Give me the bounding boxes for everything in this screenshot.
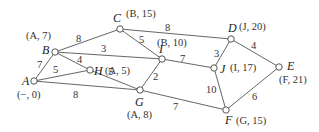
edge-weight-label: 8: [165, 22, 170, 33]
node-d-label: D: [227, 21, 237, 35]
edge-weight-label: 5: [139, 34, 144, 45]
node-h-circle: [87, 67, 93, 73]
node-b-circle: [52, 49, 58, 55]
node-b-label: B: [42, 43, 50, 57]
edge-a-g: [34, 81, 140, 90]
edge-a-h: [34, 70, 90, 81]
node-e-tag: (F, 21): [279, 74, 307, 86]
edge-i-j: [162, 59, 214, 68]
edge-f-e: [226, 67, 279, 110]
node-h-tag: (A, 5): [105, 65, 131, 77]
node-g-tag: (A, 8): [127, 109, 153, 121]
edge-weight-label: 10: [206, 84, 217, 95]
edge-weight-label: 2: [153, 71, 158, 82]
node-c-tag: (B, 15): [126, 8, 156, 20]
node-d-tag: (J, 20): [239, 21, 266, 33]
node-f-tag: (G, 15): [236, 115, 267, 127]
node-f-label: F: [224, 113, 233, 127]
node-a-label: A: [21, 74, 30, 88]
edge-weight-label: 8: [73, 89, 78, 100]
weighted-graph-diagram: 75883455827731046 A(−, 0)B(A, 7)C(B, 15)…: [0, 0, 319, 132]
edge-b-i: [55, 52, 162, 59]
node-e-label: E: [286, 59, 295, 73]
edge-weight-label: 8: [76, 33, 81, 44]
edge-weight-label: 4: [77, 54, 83, 65]
node-c-label: C: [113, 11, 122, 25]
edge-weight-label: 3: [101, 43, 106, 54]
node-j-tag: (I, 17): [230, 62, 257, 74]
node-h-label: H: [93, 64, 104, 78]
edge-i-g: [140, 59, 162, 90]
node-a-circle: [31, 78, 37, 84]
node-d-circle: [228, 36, 234, 42]
edge-weight-label: 6: [252, 91, 257, 102]
node-e-circle: [276, 64, 282, 70]
node-c-circle: [117, 26, 123, 32]
edge-weight-label: 7: [173, 101, 178, 112]
node-j-label: J: [220, 62, 226, 76]
edge-weight-label: 7: [180, 53, 185, 64]
edge-b-c: [55, 29, 120, 52]
edge-weight-label: 5: [53, 64, 58, 75]
edge-weight-label: 7: [37, 59, 42, 70]
node-i-tag: (B, 10): [157, 37, 187, 49]
node-i-circle: [159, 56, 165, 62]
edge-weight-label: 4: [251, 40, 257, 51]
node-a-tag: (−, 0): [17, 89, 41, 101]
node-g-circle: [137, 87, 143, 93]
nodes-layer: A(−, 0)B(A, 7)C(B, 15)D(J, 20)E(F, 21)F(…: [17, 8, 307, 127]
edge-b-h: [55, 52, 90, 70]
node-j-circle: [211, 65, 217, 71]
edge-weight-label: 3: [214, 48, 219, 59]
node-g-label: G: [135, 95, 144, 109]
node-b-tag: (A, 7): [26, 30, 52, 42]
